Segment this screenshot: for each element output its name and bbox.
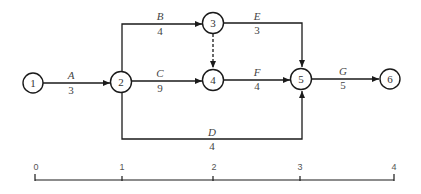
activity-c-duration: 9 (157, 82, 163, 94)
tick-label-1: 1 (119, 162, 124, 172)
node-4: 4 (203, 70, 224, 91)
activity-c: C 9 (132, 67, 202, 94)
node-1: 1 (23, 73, 43, 93)
node-3: 3 (203, 13, 224, 34)
node-6: 6 (380, 69, 400, 89)
tick-label-0: 0 (33, 162, 38, 172)
activity-a: A 3 (43, 69, 110, 96)
activity-e-label: E (253, 10, 261, 22)
node-3-label: 3 (210, 17, 216, 29)
activity-f-duration: 4 (254, 80, 260, 92)
activity-a-duration: 3 (68, 84, 74, 96)
time-axis: 0 1 2 3 4 (33, 162, 396, 181)
activity-e: E 3 (224, 10, 302, 67)
node-4-label: 4 (210, 74, 216, 86)
tick-label-2: 2 (211, 162, 216, 172)
activity-f: F 4 (224, 66, 290, 92)
activity-c-label: C (156, 67, 164, 79)
activity-b: B 4 (122, 10, 202, 72)
node-2-label: 2 (118, 76, 124, 88)
activity-b-label: B (157, 10, 164, 22)
activity-d-duration: 4 (209, 140, 215, 152)
activity-a-label: A (67, 69, 75, 81)
network-diagram: A 3 B 4 C 9 D 4 E 3 F 4 G 5 (0, 0, 421, 194)
activity-g: G 5 (312, 65, 379, 91)
node-2: 2 (111, 72, 132, 93)
node-5: 5 (291, 69, 312, 90)
tick-label-4: 4 (391, 162, 396, 172)
node-1-label: 1 (30, 77, 36, 89)
activity-d: D 4 (122, 91, 302, 152)
node-6-label: 6 (387, 73, 393, 85)
tick-label-3: 3 (297, 162, 302, 172)
activity-e-duration: 3 (254, 24, 260, 36)
activity-b-duration: 4 (157, 25, 163, 37)
activity-g-label: G (339, 65, 347, 77)
node-5-label: 5 (298, 73, 304, 85)
activity-f-label: F (253, 66, 261, 78)
activity-g-duration: 5 (340, 79, 346, 91)
activity-d-label: D (207, 126, 216, 138)
